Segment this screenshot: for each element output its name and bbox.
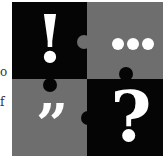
ellipsis-icon [112, 38, 154, 50]
exclamation-icon: ! [30, 6, 70, 72]
punctuation-puzzle-illustration: ! ” ? [12, 2, 163, 156]
puzzle-knob [77, 35, 91, 49]
quotation-mark-icon: ” [32, 96, 72, 152]
cropped-text-fragment: o [0, 66, 7, 78]
puzzle-knob [81, 111, 95, 125]
cropped-text-fragment: f [0, 96, 4, 108]
puzzle-knob [43, 78, 57, 92]
question-mark-icon: ? [106, 82, 156, 152]
